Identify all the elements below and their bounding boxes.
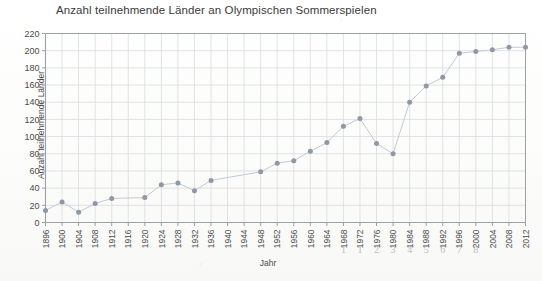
pencil-annotation: 2 bbox=[374, 244, 379, 255]
pencil-annotation: 3 bbox=[391, 244, 396, 255]
svg-text:2012: 2012 bbox=[521, 229, 531, 248]
chart-canvas: 020406080100120140160180200220 189619001… bbox=[0, 0, 542, 281]
pencil-annotation: 1 bbox=[341, 244, 346, 255]
data-point bbox=[440, 75, 445, 80]
svg-text:80: 80 bbox=[29, 149, 39, 159]
svg-text:1960: 1960 bbox=[306, 229, 316, 248]
pencil-annotation: 6 bbox=[440, 244, 445, 255]
svg-text:1920: 1920 bbox=[140, 229, 150, 248]
svg-text:1916: 1916 bbox=[123, 229, 133, 248]
svg-text:1904: 1904 bbox=[74, 229, 84, 248]
y-axis-ticks: 020406080100120140160180200220 bbox=[24, 29, 45, 228]
svg-text:160: 160 bbox=[24, 80, 39, 90]
svg-text:1924: 1924 bbox=[157, 229, 167, 248]
svg-text:20: 20 bbox=[29, 201, 39, 211]
data-point bbox=[60, 199, 65, 204]
pencil-annotation: 4 bbox=[407, 244, 412, 255]
svg-text:200: 200 bbox=[24, 46, 39, 56]
svg-text:140: 140 bbox=[24, 97, 39, 107]
data-point bbox=[175, 180, 180, 185]
data-point bbox=[192, 188, 197, 193]
data-point bbox=[275, 161, 280, 166]
svg-text:100: 100 bbox=[24, 132, 39, 142]
svg-text:2008: 2008 bbox=[504, 229, 514, 248]
data-point bbox=[523, 45, 528, 50]
svg-text:1952: 1952 bbox=[272, 229, 282, 248]
data-point bbox=[159, 182, 164, 187]
data-point bbox=[43, 208, 48, 213]
svg-text:40: 40 bbox=[29, 183, 39, 193]
data-point bbox=[490, 47, 495, 52]
data-point bbox=[374, 141, 379, 146]
data-point bbox=[506, 45, 511, 50]
data-point bbox=[291, 158, 296, 163]
pencil-annotation: 8 bbox=[473, 244, 478, 255]
svg-text:1932: 1932 bbox=[190, 229, 200, 248]
data-point bbox=[457, 51, 462, 56]
svg-text:0: 0 bbox=[34, 218, 39, 228]
data-point bbox=[391, 151, 396, 156]
chart-figure: Anzahl teilnehmende Länder an Olympische… bbox=[0, 0, 542, 281]
data-point bbox=[407, 100, 412, 105]
svg-text:1900: 1900 bbox=[57, 229, 67, 248]
data-point bbox=[424, 83, 429, 88]
data-point bbox=[324, 140, 329, 145]
data-series bbox=[43, 45, 528, 215]
data-point bbox=[258, 169, 263, 174]
pencil-annotation: 1 bbox=[357, 244, 362, 255]
svg-text:120: 120 bbox=[24, 115, 39, 125]
pencil-annotation: 5 bbox=[424, 244, 429, 255]
svg-text:1964: 1964 bbox=[322, 229, 332, 248]
svg-text:1912: 1912 bbox=[107, 229, 117, 248]
data-point bbox=[76, 210, 81, 215]
data-point bbox=[209, 178, 214, 183]
svg-text:180: 180 bbox=[24, 63, 39, 73]
pencil-annotation: ' bbox=[490, 244, 492, 255]
data-point bbox=[473, 49, 478, 54]
svg-text:1936: 1936 bbox=[206, 229, 216, 248]
svg-text:1908: 1908 bbox=[90, 229, 100, 248]
data-point bbox=[308, 149, 313, 154]
svg-text:1940: 1940 bbox=[223, 229, 233, 248]
data-point bbox=[142, 195, 147, 200]
svg-text:60: 60 bbox=[29, 166, 39, 176]
pencil-annotation: 7 bbox=[457, 244, 462, 255]
data-point bbox=[357, 116, 362, 121]
svg-text:1944: 1944 bbox=[239, 229, 249, 248]
data-point bbox=[93, 201, 98, 206]
svg-text:1948: 1948 bbox=[256, 229, 266, 248]
svg-text:1928: 1928 bbox=[173, 229, 183, 248]
svg-text:1896: 1896 bbox=[41, 229, 51, 248]
data-point bbox=[341, 124, 346, 129]
svg-text:1956: 1956 bbox=[289, 229, 299, 248]
svg-text:220: 220 bbox=[24, 29, 39, 39]
data-point bbox=[109, 196, 114, 201]
